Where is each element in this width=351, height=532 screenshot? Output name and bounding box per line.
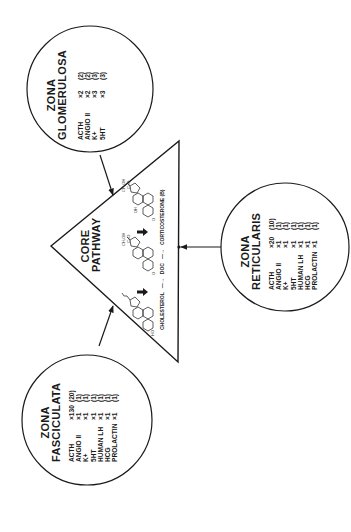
table-row: 5HT×1(1) [290,213,297,290]
paren-value: (1) [275,216,282,230]
table-row: HUMAN LH×1(1) [297,213,304,290]
hormone-label: 5HT [90,420,97,462]
paren-value: (1) [97,388,104,402]
paren-value: (1) [282,216,289,230]
hormone-label: 5HT [290,248,297,290]
pathway-block-arrow-1 [137,288,148,296]
table-row: K+×1(1) [82,383,89,462]
fold-value: ×1 [311,230,318,248]
paren-value: (1) [311,216,318,230]
fold-value: ×1 [275,230,282,248]
fold-value: ×1 [290,230,297,248]
label-o1: O [151,272,156,275]
fold-value: ×1 [111,402,118,420]
fold-value: ×1 [82,402,89,420]
table-row: PROLACTIN×1(1) [311,213,318,290]
zona-fasciculata-table: ACTH×130(20) ANGIO II×1(1) K+×1(1) 5HT×1… [68,383,118,462]
fold-value: ×3 [91,80,98,98]
table-row: ANGIO II×1(1) [275,213,282,290]
hormone-label: 5HT [99,98,106,140]
paren-value: (1) [90,388,97,402]
fold-value: ×1 [75,402,82,420]
hormone-label: K+ [82,420,89,462]
glomerulosa-to-core-arrow [100,155,113,195]
hormone-label: ACTH [77,98,84,140]
zona-reticularis-content: ZONA RETICULARIS ACTH×20(10) ANGIO II×1(… [240,213,318,290]
paren-value: (1) [290,216,297,230]
table-row: ANGIO II×1(1) [75,383,82,462]
zona-glomerulosa-table: ACTH×2(2) ANGIO II×2(2) K+×3(3) 5HT×3(3) [77,50,106,140]
fold-value: ×1 [282,230,289,248]
table-row: 5HT×3(3) [99,50,106,140]
core-pathway-title: CORE PATHWAY [80,220,102,272]
hormone-label: HCG [304,248,311,290]
zona-fasciculata-title: ZONA FASCICULATA [40,383,62,462]
hormone-label: ACTH [68,420,75,462]
zone-title-line: GLOMERULOSA [57,50,68,140]
label-o2: O [151,218,156,221]
paren-value: (1) [304,216,311,230]
paren-value: (2) [77,66,84,80]
table-row: HCG×1(1) [104,383,111,462]
arrow-junction-dot [177,245,180,248]
zona-fasciculata-content: ZONA FASCICULATA ACTH×130(20) ANGIO II×1… [40,383,118,462]
paren-value: (1) [111,388,118,402]
table-row: ANGIO II×2(2) [84,50,91,140]
paren-value: (1) [104,388,111,402]
paren-value: (3) [99,66,106,80]
table-row: K+×1(1) [282,213,289,290]
step-arrow-icon: —→ [160,249,165,259]
hormone-label: HUMAN LH [297,248,304,290]
hormone-label: HUMAN LH [97,420,104,462]
zona-glomerulosa-title: ZONA GLOMERULOSA [46,50,68,140]
step-cholesterol: CHOLESTEROL [160,292,165,330]
hormone-label: PROLACTIN [111,420,118,462]
hormone-label: ACTH [268,248,275,290]
paren-value: (2) [84,66,91,80]
table-row: 5HT×1(1) [90,383,97,462]
paren-value: (3) [91,66,98,80]
zona-reticularis-table: ACTH×20(10) ANGIO II×1(1) K+×1(1) 5HT×1(… [268,213,318,290]
fold-value: ×1 [304,230,311,248]
paren-value: (1) [75,388,82,402]
pathway-block-arrow-2 [137,228,148,236]
table-row: HUMAN LH×1(1) [97,383,104,462]
hormone-label: K+ [91,98,98,140]
zone-title-line: RETICULARIS [251,213,262,290]
table-row: ACTH×20(10) [268,213,275,290]
zone-title-line: FASCICULATA [51,383,62,462]
table-row: PROLACTIN×1(1) [111,383,118,462]
paren-value: (10) [268,216,275,230]
fold-value: ×2 [84,80,91,98]
label-co-2: C=O [126,181,131,189]
step-doc: DOC [160,263,165,274]
paren-value: (1) [82,388,89,402]
fold-value: ×2 [77,80,84,98]
zona-reticularis-title: ZONA RETICULARIS [240,213,262,290]
hormone-label: K+ [282,248,289,290]
label-co-1: C=O [126,235,131,243]
label-oh: OH [133,207,138,213]
table-row: ACTH×2(2) [77,50,84,140]
paren-value: (1) [297,216,304,230]
step-arrow-icon: —→ [160,278,165,288]
core-pathway-steps: CHOLESTEROL —→ DOC —→ CORTICOSTERONE (B) [160,190,165,330]
table-row: HCG×1(1) [304,213,311,290]
hormone-label: ANGIO II [75,420,82,462]
fold-value: ×130 [68,402,75,420]
hormone-label: ANGIO II [84,98,91,140]
paren-value: (20) [68,388,75,402]
table-row: K+×3(3) [91,50,98,140]
table-row: ACTH×130(20) [68,383,75,462]
fold-value: ×1 [97,402,104,420]
fold-value: ×20 [268,230,275,248]
fasciculata-to-core-arrow [99,306,113,346]
fold-value: ×1 [90,402,97,420]
hormone-label: HCG [104,420,111,462]
hormone-label: ANGIO II [275,248,282,290]
fold-value: ×1 [297,230,304,248]
fold-value: ×3 [99,80,106,98]
core-title-line: PATHWAY [91,220,102,272]
zona-glomerulosa-content: ZONA GLOMERULOSA ACTH×2(2) ANGIO II×2(2)… [46,50,106,140]
step-corticosterone: CORTICOSTERONE (B) [160,190,165,246]
